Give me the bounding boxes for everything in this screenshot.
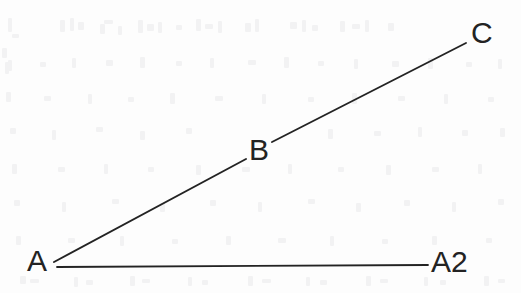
ray-A-to-A2-horizontal xyxy=(57,265,428,267)
vertex-label-c: C xyxy=(471,18,493,48)
ray-B-to-C-diagonal xyxy=(272,43,466,142)
vertex-label-a: A xyxy=(27,246,47,276)
vertex-label-a2: A2 xyxy=(431,247,468,277)
vertex-label-b: B xyxy=(249,135,269,165)
ray-A-to-B-diagonal xyxy=(54,159,246,262)
diagram-canvas: A B C A2 xyxy=(0,0,521,293)
